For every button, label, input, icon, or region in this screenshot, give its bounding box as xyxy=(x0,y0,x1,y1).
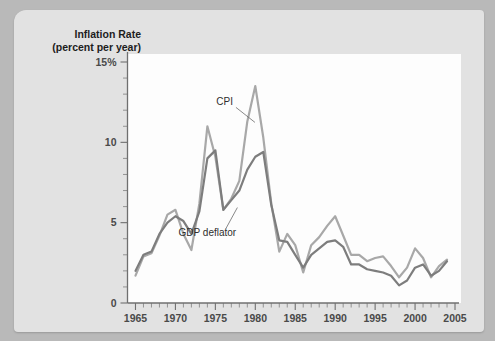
x-tick-label: 1985 xyxy=(284,312,308,324)
x-tick-label: 1975 xyxy=(204,312,228,324)
series-annotation-label: GDP deflator xyxy=(179,227,237,238)
x-tick-label: 1990 xyxy=(324,312,348,324)
series-annotation-label: CPI xyxy=(216,96,233,107)
x-tick-label: 1980 xyxy=(244,312,268,324)
chart-title: Inflation Rate xyxy=(74,28,141,40)
x-tick-label: 1970 xyxy=(164,312,188,324)
x-tick-label: 2000 xyxy=(403,312,427,324)
y-axis-major-ticks xyxy=(121,62,128,303)
plot-background xyxy=(128,54,462,303)
chart-subtitle: (percent per year) xyxy=(52,41,141,53)
x-tick-label: 1965 xyxy=(124,312,148,324)
y-tick-label: 10 xyxy=(105,136,117,148)
y-tick-label: 0 xyxy=(111,297,117,309)
chart-figure: Inflation Rate (percent per year) 051015… xyxy=(0,0,495,341)
x-tick-label: 2005 xyxy=(443,312,467,324)
x-axis-tick-labels: 196519701975198019851990199520002005 xyxy=(124,312,467,324)
inflation-rate-line-chart: Inflation Rate (percent per year) 051015… xyxy=(0,0,495,341)
y-tick-label: 5 xyxy=(111,216,117,228)
y-tick-label: 15% xyxy=(95,56,117,68)
x-tick-label: 1995 xyxy=(363,312,387,324)
y-axis-minor-ticks xyxy=(123,78,128,287)
y-axis-tick-labels: 051015% xyxy=(95,56,117,309)
